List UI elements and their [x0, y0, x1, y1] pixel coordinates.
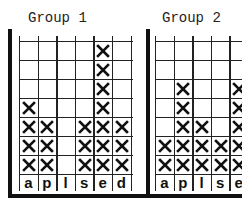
category-label: s [211, 175, 230, 191]
x-mark-icon [212, 137, 230, 155]
x-mark-icon [39, 156, 57, 174]
x-mark-icon [193, 118, 211, 136]
category-label: s [75, 175, 94, 191]
grid-line-horizontal [155, 79, 242, 80]
grid-line-horizontal [19, 60, 133, 61]
x-mark-icon [113, 137, 131, 155]
frame-bottom-bar [146, 194, 242, 198]
category-label: d [112, 175, 131, 191]
category-label: a [155, 175, 174, 191]
x-mark-icon [212, 156, 230, 174]
x-mark-icon [230, 137, 242, 155]
x-mark-icon [39, 118, 57, 136]
category-label: p [38, 175, 57, 191]
x-mark-icon [113, 118, 131, 136]
x-mark-icon [94, 42, 112, 60]
x-mark-icon [94, 137, 112, 155]
x-mark-icon [230, 80, 242, 98]
grid-line-horizontal [19, 79, 133, 80]
category-label: p [174, 175, 193, 191]
x-mark-icon [156, 137, 174, 155]
frame-left-bar [8, 29, 12, 197]
grid-line-horizontal [19, 41, 133, 42]
x-mark-icon [175, 99, 193, 117]
x-mark-icon [193, 137, 211, 155]
x-mark-icon [20, 156, 38, 174]
x-mark-icon [94, 99, 112, 117]
x-mark-icon [39, 137, 57, 155]
category-label: a [19, 175, 38, 191]
x-mark-icon [20, 137, 38, 155]
x-mark-icon [94, 156, 112, 174]
category-label: l [56, 175, 75, 191]
x-mark-icon [113, 156, 131, 174]
x-mark-icon [94, 118, 112, 136]
category-label: l [192, 175, 211, 191]
x-mark-icon [76, 156, 94, 174]
grid-line-horizontal [155, 41, 242, 42]
x-mark-icon [76, 137, 94, 155]
chart-title: Group 2 [162, 10, 221, 26]
x-mark-icon [94, 61, 112, 79]
x-mark-icon [175, 118, 193, 136]
x-mark-icon [175, 156, 193, 174]
x-mark-icon [230, 156, 242, 174]
x-mark-icon [156, 156, 174, 174]
x-mark-icon [230, 99, 242, 117]
x-mark-icon [175, 80, 193, 98]
grid-line-horizontal [155, 60, 242, 61]
x-mark-icon [94, 80, 112, 98]
x-mark-icon [230, 118, 242, 136]
x-mark-icon [193, 156, 211, 174]
x-mark-icon [20, 118, 38, 136]
x-mark-icon [175, 137, 193, 155]
category-label: e [229, 175, 242, 191]
grid-line-horizontal [155, 98, 242, 99]
x-mark-icon [20, 99, 38, 117]
frame-bottom-bar [8, 194, 149, 198]
category-label: e [93, 175, 112, 191]
x-mark-icon [76, 118, 94, 136]
chart-title: Group 1 [28, 10, 87, 26]
frame-left-bar [146, 29, 150, 197]
